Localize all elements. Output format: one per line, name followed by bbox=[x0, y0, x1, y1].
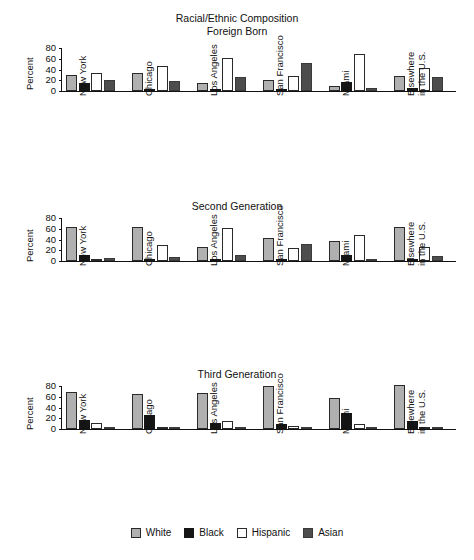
legend-item-asian: Asian bbox=[303, 527, 343, 538]
category-label-line: in the U.S. bbox=[417, 52, 428, 96]
legend-label: White bbox=[146, 527, 172, 538]
category-label-line: Chicago bbox=[143, 399, 154, 434]
category-label-line: New York bbox=[77, 56, 88, 96]
category-label: Los Angeles bbox=[209, 382, 220, 434]
panel-foreign-born: Racial/Ethnic Composition Foreign Born P… bbox=[0, 0, 474, 190]
category-label-line: Miami bbox=[340, 409, 351, 434]
category-label: Elsewherein the U.S. bbox=[406, 222, 427, 266]
category-label-line: Miami bbox=[340, 71, 351, 96]
category-label: San Francisco bbox=[275, 373, 286, 434]
category-label-line: Miami bbox=[340, 241, 351, 266]
category-label-line: San Francisco bbox=[274, 35, 285, 96]
legend-item-hispanic: Hispanic bbox=[237, 527, 290, 538]
category-label: San Francisco bbox=[275, 35, 286, 96]
chart-legend: WhiteBlackHispanicAsian bbox=[0, 527, 474, 538]
category-label-line: Elsewhere bbox=[405, 390, 416, 434]
category-labels: New YorkChicagoLos AngelesSan FranciscoM… bbox=[0, 0, 474, 190]
category-label-line: Los Angeles bbox=[208, 44, 219, 96]
category-label-line: New York bbox=[77, 394, 88, 434]
category-label-line: Los Angeles bbox=[208, 382, 219, 434]
legend-item-black: Black bbox=[184, 527, 223, 538]
legend-swatch-black bbox=[184, 528, 194, 538]
category-label-line: San Francisco bbox=[274, 373, 285, 434]
category-label: Elsewherein the U.S. bbox=[406, 390, 427, 434]
legend-swatch-asian bbox=[303, 528, 313, 538]
category-label: Chicago bbox=[144, 61, 155, 96]
category-label: New York bbox=[78, 394, 89, 434]
category-label-line: San Francisco bbox=[274, 205, 285, 266]
legend-swatch-white bbox=[131, 528, 141, 538]
legend-label: Asian bbox=[318, 527, 343, 538]
category-label-line: New York bbox=[77, 226, 88, 266]
panel-second-generation: Second Generation Percent 020406080 New … bbox=[0, 190, 474, 360]
category-label: New York bbox=[78, 56, 89, 96]
category-label: Chicago bbox=[144, 231, 155, 266]
category-label: Elsewherein the U.S. bbox=[406, 52, 427, 96]
category-label: Los Angeles bbox=[209, 214, 220, 266]
category-label-line: in the U.S. bbox=[417, 390, 428, 434]
category-label-line: Elsewhere bbox=[405, 52, 416, 96]
category-label: San Francisco bbox=[275, 205, 286, 266]
category-label: New York bbox=[78, 226, 89, 266]
legend-item-white: White bbox=[131, 527, 172, 538]
category-label: Miami bbox=[341, 241, 352, 266]
category-label: Miami bbox=[341, 409, 352, 434]
legend-label: Black bbox=[199, 527, 223, 538]
category-label: Los Angeles bbox=[209, 44, 220, 96]
chart-figure: Racial/Ethnic Composition Foreign Born P… bbox=[0, 0, 474, 560]
category-labels: New YorkChicagoLos AngelesSan FranciscoM… bbox=[0, 190, 474, 360]
category-label: Chicago bbox=[144, 399, 155, 434]
category-label-line: Elsewhere bbox=[405, 222, 416, 266]
legend-label: Hispanic bbox=[252, 527, 290, 538]
category-label-line: Chicago bbox=[143, 61, 154, 96]
category-label-line: in the U.S. bbox=[417, 222, 428, 266]
category-label-line: Los Angeles bbox=[208, 214, 219, 266]
category-label: Miami bbox=[341, 71, 352, 96]
legend-swatch-hispanic bbox=[237, 528, 247, 538]
category-label-line: Chicago bbox=[143, 231, 154, 266]
